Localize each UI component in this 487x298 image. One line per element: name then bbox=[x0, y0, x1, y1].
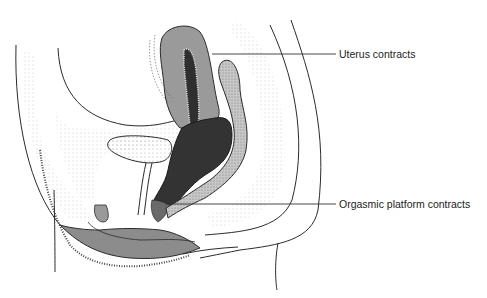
label-uterus-contracts: Uterus contracts bbox=[339, 48, 415, 60]
uterus bbox=[150, 26, 220, 128]
label-orgasmic-platform-contracts: Orgasmic platform contracts bbox=[339, 198, 470, 210]
pelvis-illustration bbox=[0, 0, 487, 298]
pubic-bone bbox=[94, 205, 108, 222]
anatomy-diagram: Uterus contracts Orgasmic platform contr… bbox=[0, 0, 487, 298]
